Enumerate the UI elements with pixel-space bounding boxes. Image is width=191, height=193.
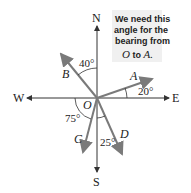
label-c: C xyxy=(74,132,83,146)
label-origin: O xyxy=(83,98,92,112)
callout-a: A. xyxy=(142,48,152,60)
callout-to: to xyxy=(130,50,144,60)
angle-a: 20° xyxy=(138,85,153,97)
arc-d xyxy=(97,116,105,118)
label-east: E xyxy=(172,91,179,105)
callout-line-1: We need this xyxy=(115,14,170,24)
label-south: S xyxy=(93,175,100,189)
callout-line-2: angle for the xyxy=(114,25,168,35)
bearing-diagram: N S E W O A B C D 20° 40° 75° 25° We nee… xyxy=(0,0,191,193)
diagram-canvas: N S E W O A B C D 20° 40° 75° 25° We nee… xyxy=(0,0,191,193)
label-d: D xyxy=(119,127,129,141)
callout-line-4: O to A. xyxy=(122,48,153,60)
label-west: W xyxy=(13,91,25,105)
arc-b xyxy=(78,68,97,75)
arc-a xyxy=(125,88,127,98)
angle-c: 75° xyxy=(65,112,80,124)
label-north: N xyxy=(92,11,101,25)
callout-o: O xyxy=(122,48,130,60)
angle-b: 40° xyxy=(79,57,94,69)
callout-line-3: bearing from xyxy=(115,36,170,46)
label-a: A xyxy=(129,69,138,83)
label-b: B xyxy=(62,67,70,81)
angle-d: 25° xyxy=(100,136,115,148)
